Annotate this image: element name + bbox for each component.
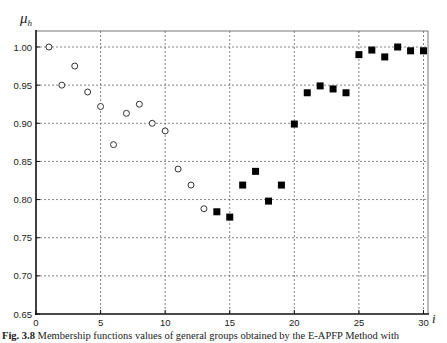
y-tick-label: 0.95 (14, 80, 33, 91)
y-tick-label: 0.85 (14, 156, 33, 167)
data-point-square (304, 89, 311, 96)
data-point-square (420, 47, 427, 54)
data-point-square (317, 82, 324, 89)
data-point-square (368, 47, 375, 54)
x-tick-label: 30 (418, 317, 429, 328)
caption-text: Membership functions values of general g… (35, 330, 399, 341)
data-point-square (381, 53, 388, 60)
data-point-square (239, 182, 246, 189)
y-tick-label: 0.70 (14, 270, 33, 281)
data-point-circle (85, 89, 91, 95)
caption-label: Fig. 3.8 (2, 330, 35, 341)
data-point-circle (123, 110, 129, 116)
x-axis-label: i (432, 311, 436, 326)
x-tick-label: 10 (160, 317, 171, 328)
x-tick-label: 20 (289, 317, 300, 328)
data-point-circle (72, 63, 78, 69)
scatter-chart: 0.650.700.750.800.850.900.951.00 0510152… (0, 0, 447, 343)
data-point-circle (136, 101, 142, 107)
data-point-circle (175, 166, 181, 172)
y-tick-label: 1.00 (14, 42, 33, 53)
x-tick-label: 25 (354, 317, 365, 328)
data-point-circle (98, 104, 104, 110)
data-point-square (278, 182, 285, 189)
data-point-square (213, 208, 220, 215)
data-points (46, 44, 427, 221)
data-point-circle (111, 142, 117, 148)
grid-lines (36, 31, 428, 314)
data-point-square (343, 89, 350, 96)
data-point-square (291, 121, 298, 128)
x-tick-label: 15 (224, 317, 235, 328)
data-point-square (226, 214, 233, 221)
y-tick-label: 0.90 (14, 118, 33, 129)
data-point-circle (201, 206, 207, 212)
figure-caption: Fig. 3.8 Membership functions values of … (2, 330, 447, 341)
x-axis-ticks: 051015202530 (33, 310, 428, 328)
data-point-square (394, 44, 401, 51)
data-point-square (252, 168, 259, 175)
data-point-square (407, 47, 414, 54)
data-point-square (330, 85, 337, 92)
y-tick-label: 0.80 (14, 194, 33, 205)
x-tick-label: 5 (98, 317, 103, 328)
data-point-circle (46, 44, 52, 50)
y-axis-label: μh (19, 10, 33, 28)
data-point-circle (188, 182, 194, 188)
x-tick-label: 0 (33, 317, 38, 328)
y-tick-label: 0.65 (14, 309, 33, 320)
y-tick-label: 0.75 (14, 232, 33, 243)
data-point-circle (149, 120, 155, 126)
data-point-square (265, 198, 272, 205)
plot-frame (35, 30, 429, 315)
data-point-circle (162, 128, 168, 134)
data-point-square (355, 51, 362, 58)
data-point-circle (59, 82, 65, 88)
